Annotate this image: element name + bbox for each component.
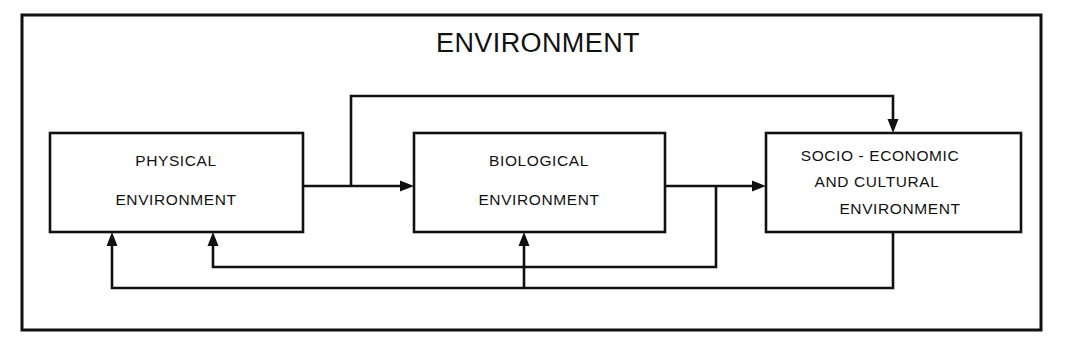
- node-biological-line-2: ENVIRONMENT: [478, 191, 599, 208]
- node-physical-line-2: ENVIRONMENT: [115, 191, 236, 208]
- environment-diagram: ENVIRONMENT: [0, 0, 1068, 352]
- arrowhead-into-physical-bottom-left: [107, 232, 118, 246]
- node-socio-line-2: AND CULTURAL: [815, 173, 940, 190]
- node-biological-environment: BIOLOGICAL ENVIRONMENT: [414, 133, 665, 232]
- arrowhead-into-socio-left: [752, 181, 766, 192]
- connector-physical-to-biological: [303, 181, 414, 192]
- node-socio-line-3: ENVIRONMENT: [839, 200, 960, 217]
- node-physical-environment: PHYSICAL ENVIRONMENT: [50, 133, 303, 232]
- arrowhead-into-biological-bottom: [519, 232, 530, 246]
- diagram-canvas: ENVIRONMENT: [0, 0, 1068, 352]
- arrowhead-into-socio-top: [888, 119, 899, 133]
- node-physical-line-1: PHYSICAL: [135, 152, 216, 169]
- arrowhead-into-biological-left: [400, 181, 414, 192]
- node-physical-box: [50, 133, 303, 232]
- node-biological-line-1: BIOLOGICAL: [489, 152, 589, 169]
- connector-feedback-lower: [107, 232, 894, 288]
- diagram-title: ENVIRONMENT: [436, 28, 640, 58]
- node-socio-economic-cultural-environment: SOCIO - ECONOMIC AND CULTURAL ENVIRONMEN…: [766, 133, 1021, 232]
- node-biological-box: [414, 133, 665, 232]
- arrowhead-into-physical-bottom-right: [208, 232, 219, 246]
- node-socio-line-1: SOCIO - ECONOMIC: [801, 147, 960, 164]
